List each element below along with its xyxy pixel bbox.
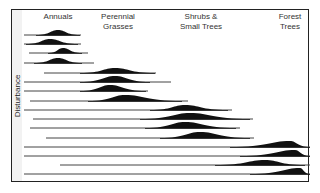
distribution-row (24, 150, 310, 157)
distribution-row (60, 160, 310, 166)
distribution-row (46, 132, 254, 139)
distribution-row (44, 68, 156, 74)
distribution-row (24, 85, 148, 92)
distribution-row (24, 105, 232, 111)
distribution-row (24, 141, 310, 148)
distribution-row (24, 30, 81, 36)
distribution-row (30, 122, 240, 129)
distribution-rows (0, 0, 320, 193)
distribution-row (24, 39, 81, 45)
distribution-row (33, 113, 253, 120)
distribution-row (24, 58, 94, 64)
distribution-row (29, 48, 88, 54)
distribution-row (24, 168, 310, 175)
distribution-row (24, 76, 171, 83)
distribution-row (30, 95, 188, 102)
